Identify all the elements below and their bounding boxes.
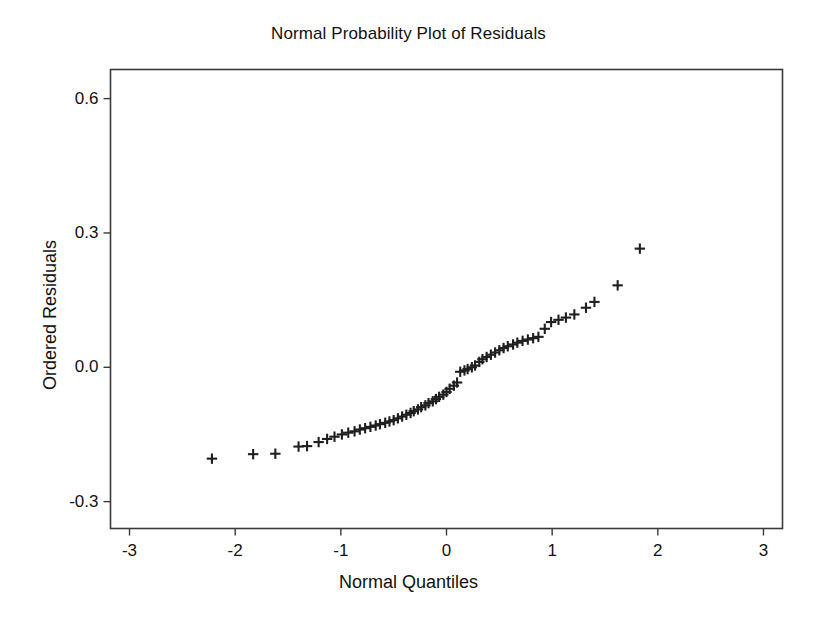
x-axis-ticks <box>130 529 764 536</box>
plot-area <box>0 0 817 621</box>
y-tick-label: -0.3 <box>0 492 99 512</box>
data-point-plus-marker <box>360 423 370 433</box>
data-point-plus-marker <box>270 449 280 459</box>
data-point-plus-marker <box>248 449 258 459</box>
data-point-plus-marker <box>546 317 556 327</box>
y-tick-label: 0.0 <box>0 357 99 377</box>
data-point-plus-marker <box>528 333 538 343</box>
data-point-plus-marker <box>581 303 591 313</box>
data-point-plus-marker <box>302 441 312 451</box>
y-tick-label: 0.3 <box>0 223 99 243</box>
data-point-plus-marker <box>207 453 217 463</box>
data-point-plus-marker <box>540 324 550 334</box>
data-point-plus-marker <box>523 334 533 344</box>
x-tick-label: 0 <box>442 541 451 561</box>
data-point-plus-marker <box>329 432 339 442</box>
x-tick-label: -2 <box>228 541 243 561</box>
data-point-markers <box>207 243 645 463</box>
data-point-plus-marker <box>553 315 563 325</box>
data-point-plus-marker <box>337 429 347 439</box>
x-tick-label: -1 <box>333 541 348 561</box>
x-tick-label: -3 <box>122 541 137 561</box>
data-point-plus-marker <box>355 424 365 434</box>
x-tick-label: 3 <box>759 541 768 561</box>
data-point-plus-marker <box>589 297 599 307</box>
y-axis-ticks <box>104 99 111 502</box>
data-point-plus-marker <box>349 426 359 436</box>
x-tick-label: 2 <box>653 541 662 561</box>
x-tick-label: 1 <box>547 541 556 561</box>
data-point-plus-marker <box>343 427 353 437</box>
y-tick-label: 0.6 <box>0 89 99 109</box>
data-point-plus-marker <box>533 332 543 342</box>
data-point-plus-marker <box>365 422 375 432</box>
data-point-plus-marker <box>517 336 527 346</box>
normal-probability-plot-figure: Normal Probability Plot of Residuals Ord… <box>0 0 817 621</box>
data-point-plus-marker <box>635 243 645 253</box>
data-point-plus-marker <box>612 280 622 290</box>
